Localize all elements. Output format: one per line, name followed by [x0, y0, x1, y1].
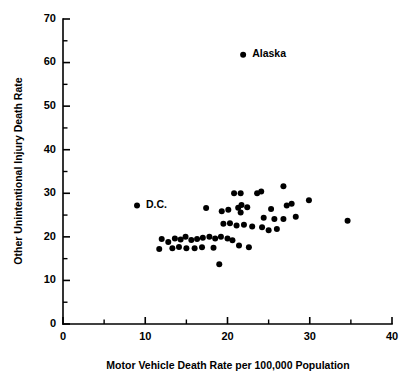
chart-canvas: 010203040506070 010203040 AlaskaD.C. Mot…	[0, 0, 411, 386]
scatter-plot-figure: 010203040506070 010203040 AlaskaD.C. Mot…	[0, 0, 411, 386]
x-tick-label: 0	[60, 330, 66, 342]
data-point	[289, 201, 295, 207]
data-point	[194, 236, 200, 242]
y-tick-label: 40	[44, 143, 56, 155]
data-point	[246, 244, 252, 250]
x-tick-label: 30	[304, 330, 316, 342]
point-annotations: AlaskaD.C.	[146, 47, 286, 210]
point-annotation-label: D.C.	[146, 198, 167, 210]
data-point	[274, 226, 280, 232]
data-point	[259, 224, 265, 230]
data-point	[345, 218, 351, 224]
data-point	[249, 223, 255, 229]
data-point	[183, 234, 189, 240]
y-tick-label: 10	[44, 273, 56, 285]
data-point	[238, 202, 244, 208]
x-tick-label: 20	[221, 330, 233, 342]
data-point	[261, 215, 267, 221]
y-axis-tick-labels: 010203040506070	[44, 12, 56, 329]
data-point	[234, 223, 240, 229]
data-point	[238, 190, 244, 196]
data-point	[225, 207, 231, 213]
x-tick-label: 40	[386, 330, 398, 342]
data-point	[206, 234, 212, 240]
data-point	[200, 235, 206, 241]
data-point	[192, 245, 198, 251]
data-point	[293, 214, 299, 220]
data-point	[227, 220, 233, 226]
data-point	[236, 243, 242, 249]
data-point	[172, 236, 178, 242]
x-tick-label: 10	[139, 330, 151, 342]
data-point	[169, 245, 175, 251]
y-tick-label: 60	[44, 55, 56, 67]
data-point	[203, 205, 209, 211]
y-tick-label: 0	[50, 317, 56, 329]
data-point	[218, 234, 224, 240]
data-point	[280, 183, 286, 189]
data-point-group	[134, 52, 351, 268]
data-point	[238, 209, 244, 215]
data-point	[266, 227, 272, 233]
y-tick-label: 70	[44, 12, 56, 24]
data-point	[165, 239, 171, 245]
data-point	[258, 189, 264, 195]
data-point	[199, 244, 205, 250]
data-point	[216, 261, 222, 267]
point-annotation-label: Alaska	[252, 47, 286, 59]
y-tick-label: 50	[44, 99, 56, 111]
data-point	[212, 236, 218, 242]
x-axis-title: Motor Vehicle Death Rate per 100,000 Pop…	[106, 359, 349, 371]
data-point	[188, 237, 194, 243]
data-point	[219, 208, 225, 214]
data-point	[244, 204, 250, 210]
data-point	[134, 202, 140, 208]
data-point	[159, 236, 165, 242]
data-point	[211, 245, 217, 251]
y-axis-title: Other Unintentional Injury Death Rate	[12, 77, 24, 264]
data-point	[268, 206, 274, 212]
data-point	[306, 197, 312, 203]
x-axis-ticks	[63, 317, 392, 324]
data-point	[156, 246, 162, 252]
y-tick-label: 30	[44, 186, 56, 198]
y-axis-ticks	[63, 19, 70, 324]
data-point	[271, 216, 277, 222]
data-point	[220, 221, 226, 227]
data-point	[176, 244, 182, 250]
y-tick-label: 20	[44, 230, 56, 242]
data-point	[183, 245, 189, 251]
data-point	[280, 216, 286, 222]
data-point	[240, 52, 246, 58]
x-axis-tick-labels: 010203040	[60, 330, 398, 342]
data-point	[229, 237, 235, 243]
data-point	[231, 190, 237, 196]
data-point	[241, 222, 247, 228]
